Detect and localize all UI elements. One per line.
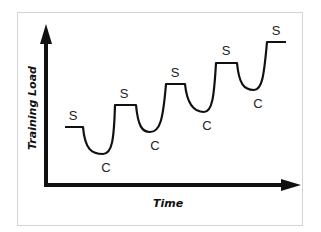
y-axis-label: Training Load	[26, 66, 39, 150]
phase-label-compensation-4: C	[253, 96, 262, 111]
x-axis-label: Time	[153, 197, 184, 210]
phase-label-stimulus-5: S	[272, 23, 281, 38]
y-axis	[40, 24, 52, 186]
phase-label-stimulus-1: S	[69, 108, 78, 123]
phase-label-compensation-2: C	[150, 138, 159, 153]
phase-label-compensation-1: C	[101, 160, 110, 175]
x-axis-arrow-icon	[281, 179, 301, 191]
phase-label-stimulus-2: S	[120, 86, 129, 101]
phase-label-stimulus-4: S	[222, 43, 231, 58]
phase-label-stimulus-3: S	[171, 65, 180, 80]
training-load-diagram: Training Load Time S C S C S C S C S	[0, 0, 321, 232]
y-axis-arrow-icon	[40, 24, 52, 44]
phase-label-compensation-3: C	[202, 118, 211, 133]
x-axis	[44, 179, 301, 191]
